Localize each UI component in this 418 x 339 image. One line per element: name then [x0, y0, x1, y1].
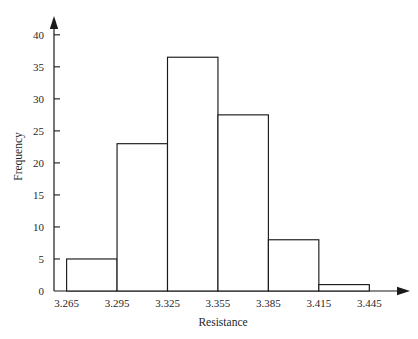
- y-tick-label: 35: [33, 61, 45, 73]
- y-axis-title: Frequency: [12, 132, 25, 181]
- x-tick-label: 3.325: [155, 297, 180, 309]
- histogram-bar: [67, 259, 117, 291]
- y-tick-label: 20: [33, 157, 45, 169]
- y-tick-label: 15: [33, 189, 45, 201]
- y-tick-label: 10: [33, 221, 45, 233]
- histogram-bar: [117, 144, 167, 291]
- bars-group: [67, 57, 370, 291]
- x-axis-arrow-icon: [397, 287, 410, 295]
- histogram-figure: 05101520253035403.2653.2953.3253.3553.38…: [0, 0, 418, 339]
- x-tick-label: 3.385: [256, 297, 281, 309]
- y-tick-label: 0: [39, 285, 45, 297]
- x-tick-label: 3.355: [206, 297, 231, 309]
- x-axis-title: Resistance: [198, 316, 247, 328]
- y-axis-arrow-icon: [50, 16, 58, 29]
- x-tick-label: 3.445: [357, 297, 382, 309]
- x-tick-label: 3.295: [105, 297, 130, 309]
- histogram-bar: [319, 285, 369, 291]
- x-tick-label: 3.415: [306, 297, 331, 309]
- histogram-bar: [218, 115, 268, 291]
- x-tick-label: 3.265: [54, 297, 79, 309]
- y-tick-label: 30: [33, 93, 45, 105]
- histogram-plot: 05101520253035403.2653.2953.3253.3553.38…: [0, 0, 418, 339]
- y-tick-label: 5: [39, 253, 45, 265]
- y-tick-label: 25: [33, 125, 45, 137]
- histogram-bar: [268, 240, 318, 291]
- y-tick-label: 40: [33, 29, 45, 41]
- histogram-bar: [168, 57, 218, 291]
